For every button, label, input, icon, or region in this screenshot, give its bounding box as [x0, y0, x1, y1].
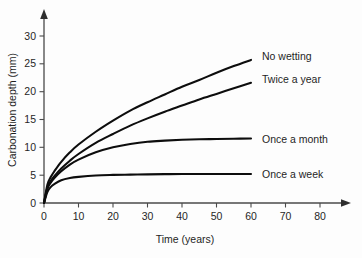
series-label-once-a-month: Once a month: [262, 133, 328, 145]
y-tick-label-0: 0: [30, 197, 36, 209]
y-tick-label-5: 5: [30, 169, 36, 181]
carbonation-depth-chart: 0 5 10 15 20 25 30 0 10 20 30 40 50 60 7…: [0, 0, 362, 258]
x-tick-label-60: 60: [245, 210, 257, 222]
y-axis-title: Carbonation depth (mm): [6, 53, 18, 167]
series-label-twice-a-year: Twice a year: [262, 73, 321, 85]
x-tick-label-80: 80: [314, 210, 326, 222]
y-tick-label-10: 10: [24, 141, 36, 153]
x-tick-label-40: 40: [176, 210, 188, 222]
x-tick-label-10: 10: [73, 210, 85, 222]
y-tick-label-15: 15: [24, 113, 36, 125]
x-axis-title: Time (years): [156, 233, 215, 245]
x-tick-label-50: 50: [211, 210, 223, 222]
x-tick-label-70: 70: [280, 210, 292, 222]
x-tick-label-30: 30: [142, 210, 154, 222]
chart-container: 0 5 10 15 20 25 30 0 10 20 30 40 50 60 7…: [0, 0, 362, 258]
y-tick-label-20: 20: [24, 85, 36, 97]
series-label-no-wetting: No wetting: [262, 50, 312, 62]
x-tick-label-0: 0: [41, 210, 47, 222]
y-tick-label-30: 30: [24, 30, 36, 42]
x-tick-label-20: 20: [107, 210, 119, 222]
y-tick-label-25: 25: [24, 57, 36, 69]
series-label-once-a-week: Once a week: [262, 168, 324, 180]
